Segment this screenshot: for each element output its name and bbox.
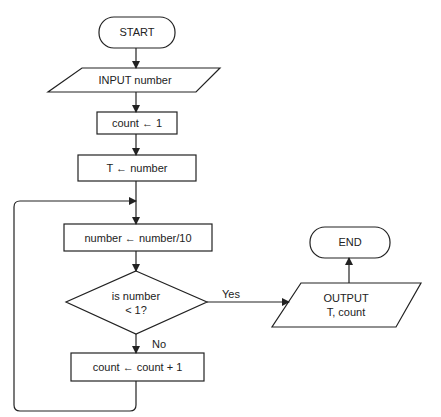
t-assign-label: T ← number (78, 161, 196, 175)
decision-label-2: < 1? (86, 303, 186, 317)
count-increment-label: count ← count + 1 (71, 360, 204, 374)
output-label-1: OUTPUT (296, 291, 396, 305)
yes-label: Yes (222, 287, 240, 301)
flowchart-canvas (0, 0, 441, 417)
start-label: START (99, 25, 175, 39)
decision-label-1: is number (86, 289, 186, 303)
divide-label: number ← number/10 (64, 231, 212, 245)
end-label: END (310, 235, 390, 249)
output-label-2: T, count (296, 305, 396, 319)
no-label: No (152, 337, 166, 351)
count-init-label: count ← 1 (97, 116, 177, 130)
input-label: INPUT number (60, 73, 210, 87)
